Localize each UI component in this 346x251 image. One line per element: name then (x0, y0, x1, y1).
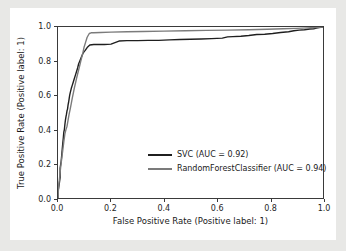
y-tick-label: 1.0 (38, 22, 51, 31)
y-axis-label: True Positive Rate (Positive label: 1) (16, 26, 27, 199)
x-tick-label: 0.8 (264, 204, 277, 213)
x-axis-label: False Positive Rate (Positive label: 1) (57, 216, 324, 226)
x-tick-mark (110, 199, 111, 202)
y-axis-label-text: True Positive Rate (Positive label: 1) (17, 36, 27, 188)
legend-item-randomforestclassifier[interactable]: RandomForestClassifier (AUC = 0.94) (148, 163, 327, 174)
legend-label-randomforestclassifier: RandomForestClassifier (AUC = 0.94) (177, 163, 327, 174)
x-tick-label: 0.0 (51, 204, 64, 213)
y-tick-label: 0.0 (38, 195, 51, 204)
y-tick-label: 0.2 (38, 160, 51, 169)
y-tick-mark (54, 95, 57, 96)
x-tick-label: 0.6 (211, 204, 224, 213)
x-tick-label: 0.4 (157, 204, 170, 213)
y-tick-mark (54, 26, 57, 27)
x-tick-mark (57, 199, 58, 202)
x-tick-mark (271, 199, 272, 202)
x-tick-label: 1.0 (318, 204, 331, 213)
x-tick-mark (164, 199, 165, 202)
legend-swatch-svc (148, 154, 172, 156)
legend-item-svc[interactable]: SVC (AUC = 0.92) (148, 149, 327, 160)
x-tick-label: 0.2 (104, 204, 117, 213)
y-tick-mark (54, 164, 57, 165)
y-tick-label: 0.6 (38, 91, 51, 100)
figure-canvas: 0.00.20.40.60.81.00.00.20.40.60.81.0 Fal… (10, 8, 336, 240)
legend-swatch-randomforestclassifier (148, 168, 172, 170)
y-tick-label: 0.4 (38, 125, 51, 134)
y-tick-mark (54, 61, 57, 62)
y-tick-mark (54, 130, 57, 131)
x-tick-mark (324, 199, 325, 202)
y-tick-mark (54, 199, 57, 200)
legend: SVC (AUC = 0.92) RandomForestClassifier … (148, 149, 327, 174)
roc-curve-screenshot: 0.00.20.40.60.81.00.00.20.40.60.81.0 Fal… (0, 0, 346, 251)
y-tick-label: 0.8 (38, 56, 51, 65)
legend-label-svc: SVC (AUC = 0.92) (177, 149, 248, 160)
x-tick-mark (217, 199, 218, 202)
